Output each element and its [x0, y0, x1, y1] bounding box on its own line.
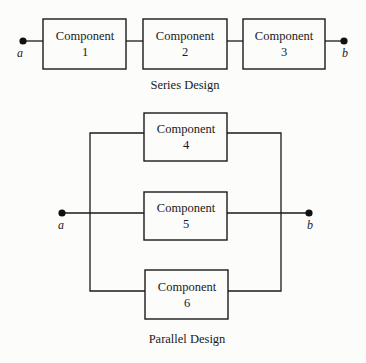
parallel-node-a-label: a	[58, 218, 64, 232]
component-box	[243, 19, 325, 69]
component-box	[144, 113, 227, 161]
parallel-node-a-dot	[58, 209, 65, 216]
series-component-2: Component 2	[143, 19, 227, 69]
series-design: a b Component 1 Component 2 Component 3 …	[17, 19, 348, 92]
parallel-left-rail	[90, 133, 145, 291]
component-number: 3	[281, 45, 287, 59]
series-caption: Series Design	[150, 78, 220, 92]
series-node-b-dot	[340, 37, 347, 44]
component-number: 5	[183, 217, 189, 231]
parallel-node-b-label: b	[307, 218, 313, 232]
series-node-b-label: b	[342, 46, 348, 60]
component-number: 4	[183, 138, 190, 152]
component-title: Component	[157, 201, 216, 215]
parallel-component-5: Component 5	[144, 192, 227, 240]
series-node-a-dot	[19, 37, 26, 44]
series-component-3: Component 3	[243, 19, 325, 69]
component-title: Component	[255, 29, 314, 43]
component-box	[145, 270, 228, 319]
component-title: Component	[156, 29, 215, 43]
parallel-node-b-dot	[305, 209, 312, 216]
component-number: 1	[82, 45, 88, 59]
component-number: 6	[184, 296, 190, 310]
parallel-component-4: Component 4	[144, 113, 227, 161]
component-box	[144, 192, 227, 240]
component-box	[143, 19, 227, 69]
component-box	[43, 19, 126, 69]
parallel-design: a b Component 4 Component 5 Component 6 …	[58, 113, 313, 346]
component-title: Component	[56, 29, 115, 43]
series-node-a-label: a	[17, 46, 23, 60]
component-number: 2	[182, 45, 188, 59]
reliability-diagram: a b Component 1 Component 2 Component 3 …	[0, 0, 366, 363]
component-title: Component	[158, 280, 217, 294]
component-title: Component	[157, 122, 216, 136]
series-component-1: Component 1	[43, 19, 126, 69]
parallel-caption: Parallel Design	[149, 332, 226, 346]
parallel-component-6: Component 6	[145, 270, 228, 319]
parallel-right-rail	[227, 133, 281, 291]
